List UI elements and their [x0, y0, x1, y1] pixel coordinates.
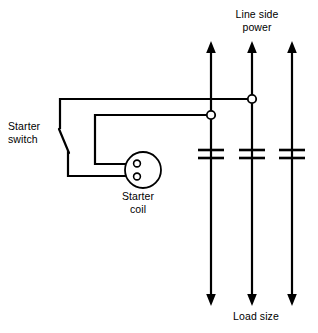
wiring-schematic-canvas [0, 0, 318, 333]
line-tap-terminal-conductor-2 [248, 95, 256, 103]
starter-coil-symbol [125, 152, 161, 188]
conductor-2-up-arrowhead [247, 41, 257, 53]
starter-switch-blade[interactable] [59, 129, 69, 153]
conductor-1-down-arrowhead [206, 294, 216, 306]
conductor-3-down-arrowhead [287, 294, 297, 306]
label-line-side-power: Line side power [222, 8, 292, 33]
starter-coil-body [125, 152, 161, 188]
conductor-1-up-arrowhead [206, 41, 216, 53]
supply-conductor-group [206, 41, 297, 306]
starter-coil-terminal-bottom [134, 173, 141, 180]
control-wire-upper [60, 99, 248, 128]
line-tap-terminal-conductor-1 [207, 111, 215, 119]
supply-conductor-2 [247, 41, 257, 306]
wiring-diagram: Line side power Load size Starter switch… [0, 0, 318, 333]
label-load-size: Load size [218, 310, 294, 323]
label-starter-switch: Starter switch [8, 120, 58, 145]
label-starter-coil: Starter coil [107, 190, 169, 215]
starter-coil-terminal-top [134, 160, 141, 167]
supply-conductor-1 [206, 41, 216, 306]
control-wire-upper-path [60, 99, 248, 128]
supply-conductor-3 [287, 41, 297, 306]
conductor-3-up-arrowhead [287, 41, 297, 53]
starter-switch-symbol[interactable] [59, 129, 69, 153]
conductor-2-down-arrowhead [247, 294, 257, 306]
